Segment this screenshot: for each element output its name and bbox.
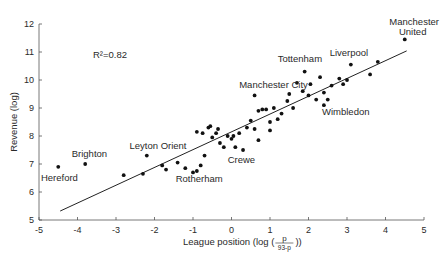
x-tick-label: 2 — [306, 225, 311, 235]
data-point — [83, 162, 87, 166]
data-point — [322, 91, 326, 95]
data-point — [203, 154, 207, 158]
x-tick-label: 0 — [229, 225, 234, 235]
data-point — [195, 130, 199, 134]
data-point — [249, 119, 253, 123]
data-point — [318, 75, 322, 79]
data-point — [291, 106, 295, 110]
data-point — [245, 126, 249, 130]
x-tick-label: 3 — [344, 225, 349, 235]
data-point — [285, 99, 289, 103]
data-point — [141, 172, 145, 176]
data-point — [214, 131, 218, 135]
data-point — [307, 94, 311, 98]
point-label: Leyton Orient — [129, 140, 186, 151]
y-axis-title: Revenue (log) — [8, 92, 19, 152]
data-point — [201, 131, 205, 135]
point-label: Brighton — [72, 148, 107, 159]
data-point — [349, 63, 353, 67]
regression-line — [60, 51, 407, 211]
data-point — [330, 84, 334, 88]
data-point — [303, 70, 307, 74]
x-tick-label: -3 — [112, 225, 120, 235]
x-tick-label: -2 — [150, 225, 158, 235]
data-point — [216, 127, 220, 131]
point-label: Crewe — [228, 154, 255, 165]
point-label: Hereford — [41, 172, 78, 183]
data-point — [268, 120, 272, 124]
point-label: Tottenham — [278, 53, 322, 64]
svg-text:p: p — [282, 234, 287, 243]
point-label: Rotherham — [176, 173, 223, 184]
data-point — [268, 129, 272, 133]
data-point — [237, 131, 241, 135]
data-point — [272, 106, 276, 110]
x-tick-label: 4 — [383, 225, 388, 235]
point-label: Wimbledon — [322, 106, 370, 117]
svg-text:League position (log (: League position (log ( — [183, 236, 275, 247]
data-point — [276, 117, 280, 121]
y-tick-label: 10 — [24, 75, 34, 85]
x-tick-label: 5 — [421, 225, 426, 235]
data-point — [257, 109, 261, 113]
data-point — [183, 166, 187, 170]
data-point — [257, 138, 261, 142]
scatter-chart: -5-4-3-2-101234556789101112 HerefordBrig… — [0, 0, 444, 265]
x-tick-label: -1 — [189, 225, 197, 235]
data-point — [218, 141, 222, 145]
data-point — [232, 134, 236, 138]
x-tick-label: -5 — [35, 225, 43, 235]
data-point — [368, 73, 372, 77]
y-tick-label: 5 — [29, 215, 34, 225]
r-squared-annotation: R²=0.82 — [93, 49, 127, 60]
data-point — [287, 92, 291, 96]
y-tick-label: 9 — [29, 103, 34, 113]
data-point — [341, 82, 345, 86]
point-label: United — [399, 26, 426, 37]
data-point — [199, 164, 203, 168]
data-point — [208, 124, 212, 128]
data-point — [233, 145, 237, 149]
data-point — [222, 145, 226, 149]
data-point — [56, 165, 60, 169]
data-point — [253, 94, 257, 98]
data-point — [326, 98, 330, 102]
data-point — [122, 173, 126, 177]
y-tick-label: 12 — [24, 19, 34, 29]
y-tick-label: 11 — [25, 47, 34, 57]
x-axis-title: League position (log (p93-p)) — [183, 234, 302, 252]
data-point — [226, 134, 230, 138]
y-tick-label: 8 — [29, 131, 34, 141]
data-point — [160, 164, 164, 168]
svg-text:)): )) — [295, 236, 301, 247]
data-point — [164, 168, 168, 172]
data-point — [264, 108, 268, 112]
data-point — [345, 78, 349, 82]
data-point — [403, 38, 407, 42]
data-point — [376, 60, 380, 64]
data-point — [241, 148, 245, 152]
y-tick-label: 7 — [29, 159, 34, 169]
x-tick-label: -4 — [73, 225, 81, 235]
chart-canvas: -5-4-3-2-101234556789101112 HerefordBrig… — [0, 0, 444, 265]
data-point — [253, 127, 257, 131]
svg-text:93-p: 93-p — [278, 244, 291, 252]
data-point — [309, 82, 313, 86]
data-point — [280, 112, 284, 116]
point-labels: HerefordBrightonLeyton OrientRotherhamCr… — [41, 16, 439, 184]
point-label: Liverpool — [330, 47, 369, 58]
y-tick-label: 6 — [29, 187, 34, 197]
point-label: Manchester City — [239, 79, 308, 90]
data-point — [145, 154, 149, 158]
x-tick-label: 1 — [267, 225, 272, 235]
data-point — [176, 161, 180, 165]
data-point — [260, 108, 264, 112]
data-point — [337, 77, 341, 81]
data-point — [210, 136, 214, 140]
data-point — [314, 98, 318, 102]
